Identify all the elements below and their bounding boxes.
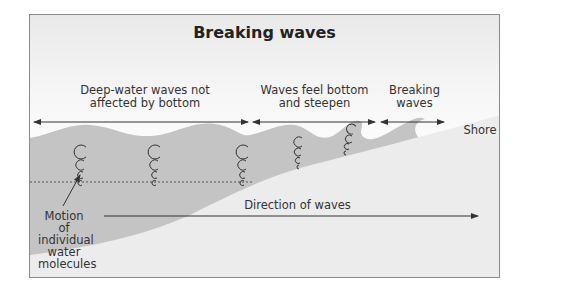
zone-label-deep: Deep-water waves not affected by bottom — [70, 84, 220, 110]
molecule-label-line1: Motion of — [38, 210, 90, 234]
diagram-frame: Breaking waves Deep-water waves not affe… — [29, 14, 500, 278]
zone-label-steepen-line2: and steepen — [252, 97, 377, 110]
direction-label: Direction of waves — [235, 199, 360, 212]
zone-label-breaking-line2: waves — [382, 97, 447, 110]
diagram-graphic — [30, 15, 500, 278]
zone-label-deep-line2: affected by bottom — [70, 97, 220, 110]
zone-label-steepen: Waves feel bottom and steepen — [252, 84, 377, 110]
molecule-label-line4: molecules — [38, 258, 90, 270]
molecule-label: Motion of individual water molecules — [38, 210, 90, 270]
shore-label: Shore — [460, 124, 500, 137]
diagram-title: Breaking waves — [30, 23, 499, 42]
zone-label-breaking: Breaking waves — [382, 84, 447, 110]
